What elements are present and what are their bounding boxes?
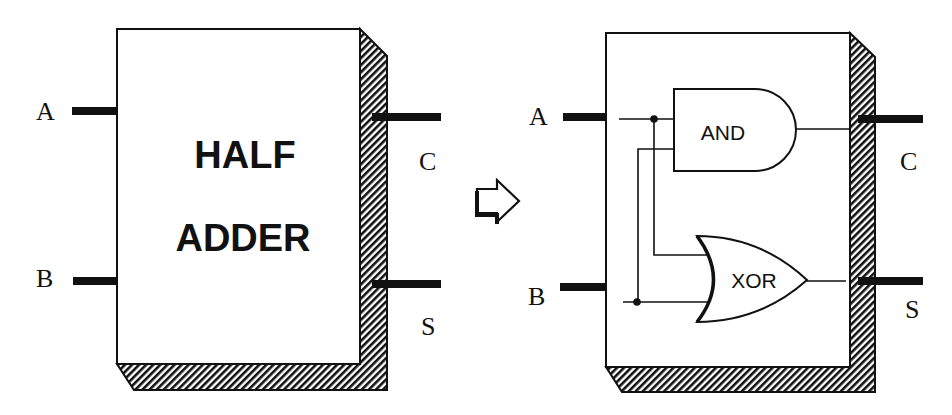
block-title-line2: ADDER xyxy=(175,217,310,259)
junction-dot-b xyxy=(633,298,641,306)
right-arrow-icon xyxy=(477,180,519,224)
output-s-wire xyxy=(372,280,441,288)
output-c-wire xyxy=(858,115,923,123)
block-title-line1: HALF xyxy=(194,134,295,176)
output-c-label: C xyxy=(900,147,917,176)
input-b-wire xyxy=(560,283,606,291)
half-adder-block: HALF ADDER A B C S xyxy=(36,29,441,390)
and-gate: AND xyxy=(674,89,796,171)
output-s-label: S xyxy=(905,295,919,324)
input-b-label: B xyxy=(528,282,545,311)
input-b-wire xyxy=(73,277,118,285)
half-adder-internal-block: A B C S AND xyxy=(528,33,923,392)
input-a-label: A xyxy=(36,97,55,126)
and-gate-label: AND xyxy=(701,121,745,144)
input-b-label: B xyxy=(36,264,53,293)
junction-dot-a xyxy=(650,115,658,123)
output-c-wire xyxy=(372,113,441,121)
output-s-label: S xyxy=(421,312,435,341)
half-adder-diagram: HALF ADDER A B C S A B C S xyxy=(0,0,952,415)
output-s-wire xyxy=(858,277,923,285)
input-a-label: A xyxy=(529,102,548,131)
xor-gate-label: XOR xyxy=(731,269,777,292)
input-a-wire xyxy=(72,107,118,115)
block-face xyxy=(117,29,360,364)
output-c-label: C xyxy=(419,147,436,176)
input-a-wire xyxy=(563,113,606,121)
